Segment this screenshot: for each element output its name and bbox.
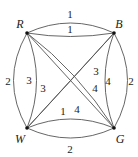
weight-diag-rg-upper: 4: [92, 82, 98, 94]
vertex-label-g: G: [116, 132, 125, 146]
weight-diag-bw-lower: 3: [40, 82, 46, 94]
weight-top-inner: 1: [67, 23, 73, 35]
vertex-r: [25, 31, 29, 35]
weight-top-outer: 1: [67, 8, 73, 20]
weight-left-inner: 3: [26, 74, 32, 86]
vertex-label-r: R: [15, 17, 24, 31]
weight-bottom-inner: 1: [60, 105, 66, 117]
weight-right-inner: 4: [105, 75, 111, 87]
weight-diag-rg-lower: 4: [74, 103, 80, 115]
weight-bottom-outer: 2: [67, 143, 73, 155]
vertex-w: [25, 126, 29, 130]
edge-r-w-outer: [14, 33, 28, 128]
edge-b-g-outer: [114, 33, 128, 128]
weight-right-outer: 2: [128, 75, 134, 87]
weight-left-outer: 2: [5, 75, 11, 87]
vertex-label-b: B: [115, 17, 123, 31]
edge-w-g-inner: [27, 119, 114, 128]
graph-diagram: R B W G 1 1 2 3 2 4 2 1 3 3 4 4: [0, 0, 138, 157]
edge-w-g-outer: [27, 128, 114, 138]
graph-canvas: R B W G 1 1 2 3 2 4 2 1 3 3 4 4: [0, 0, 138, 157]
weight-diag-bw-upper: 3: [93, 65, 99, 77]
vertex-label-w: W: [15, 132, 26, 146]
vertex-g: [112, 126, 116, 130]
vertex-b: [112, 31, 116, 35]
